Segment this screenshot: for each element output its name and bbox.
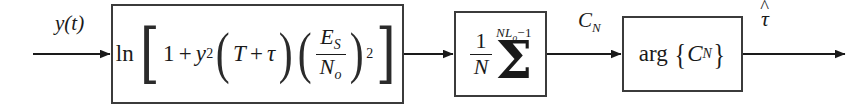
esno-fraction: ES No [316, 26, 346, 82]
plus-sign-1: + [179, 41, 192, 67]
arg-operator: arg [639, 41, 668, 67]
cn-subscript: N [592, 20, 601, 35]
ln-block-formula: ln [ 1 + y2 ( T + τ ) ( ES No )2 ] [116, 26, 400, 82]
ln-block: ln [ 1 + y2 ( T + τ ) ( ES No )2 ] [111, 4, 404, 104]
summation-block: 1 N NLo−1 Σ [454, 11, 547, 97]
arg-block-formula: arg { CN } [639, 37, 726, 71]
summation-block-formula: 1 N NLo−1 Σ [469, 26, 532, 82]
fraction-denominator: N [470, 54, 493, 78]
symbol-N: N [320, 54, 335, 79]
intermediate-signal-label: CN [578, 10, 601, 34]
arg-argument: C [687, 41, 702, 67]
arg-argument-subscript: N [702, 46, 711, 62]
term-one: 1 [163, 41, 175, 67]
block-diagram: ln [ 1 + y2 ( T + τ ) ( ES No )2 ] 1 N [0, 0, 852, 109]
arg-block: arg { CN } [622, 16, 743, 92]
brace-close: } [713, 37, 725, 71]
ln-operator: ln [116, 41, 134, 67]
sigma-symbol: Σ [495, 39, 532, 82]
esno-denominator: No [316, 54, 346, 83]
input-signal-label: y(t) [55, 13, 84, 34]
variable-y: y [196, 41, 206, 67]
sigma-stack: NLo−1 Σ [495, 26, 532, 82]
esno-numerator: ES [316, 26, 345, 54]
plus-sign-2: + [250, 41, 263, 67]
fraction-numerator: 1 [472, 30, 491, 53]
cn-base: C [578, 8, 592, 32]
symbol-N-subscript: o [334, 67, 341, 82]
output-signal-label: ^τ [761, 8, 769, 30]
brace-open: { [674, 37, 686, 71]
variable-tau: τ [267, 41, 275, 67]
variable-T: T [233, 41, 246, 67]
symbol-E-subscript: S [334, 37, 341, 52]
tau-hat: ^τ [761, 8, 769, 30]
ratio-exponent: 2 [366, 46, 373, 62]
y-exponent: 2 [206, 46, 213, 62]
hat-accent: ^ [760, 0, 769, 17]
one-over-n-fraction: 1 N [470, 30, 493, 78]
symbol-E: E [320, 24, 334, 49]
